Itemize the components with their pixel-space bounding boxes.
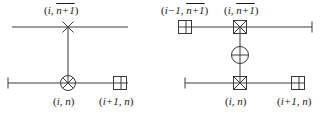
stencil-canvas <box>0 0 323 114</box>
node-label-right-topmid: (i, n+1) <box>224 4 258 16</box>
node-label-right-bottomright: (i+1, n) <box>277 96 311 107</box>
circled-plus-marker <box>232 47 249 64</box>
node-label-right-bottommid: (i, n) <box>225 96 246 107</box>
stencil-figure: (i, n+1) (i, n) (i+1, n) (i−1, n+1) (i, … <box>0 0 323 114</box>
node-label-left-top: (i, n+1) <box>44 4 78 16</box>
node-label-left-right: (i+1, n) <box>99 96 133 107</box>
node-label-right-topleft: (i−1, n+1) <box>161 4 208 16</box>
node-label-left-center: (i, n) <box>53 96 74 107</box>
